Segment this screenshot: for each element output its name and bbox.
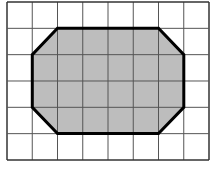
grid-figure — [0, 0, 214, 170]
